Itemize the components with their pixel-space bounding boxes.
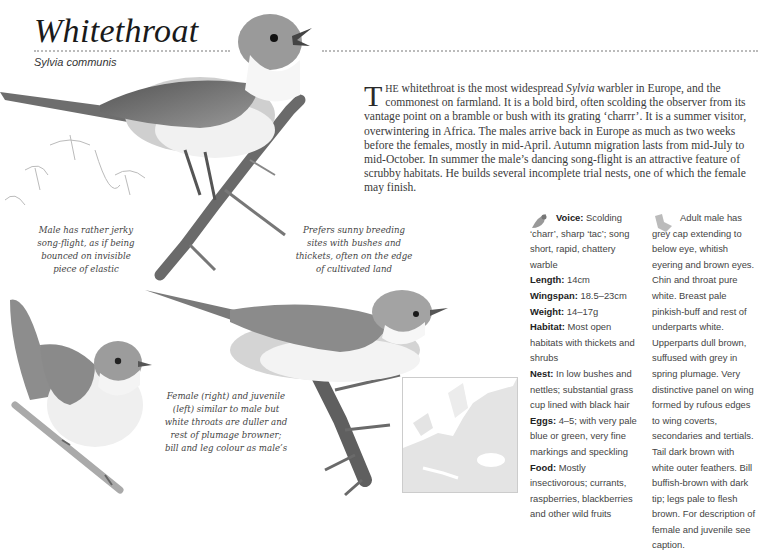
intro-paragraph: THE whitethroat is the most widespread S… — [364, 82, 756, 196]
fact-label: Length: — [530, 274, 564, 285]
fact-label: Food: — [530, 462, 556, 473]
fact-value: 14–17g — [564, 306, 598, 317]
caption-song-flight: Male has rather jerky song-flight, as if… — [34, 224, 138, 276]
fact-weight: Weight: 14–17g — [530, 304, 640, 320]
fact-nest: Nest: In low bushes and nettles; substan… — [530, 366, 640, 413]
intro-text-2: warbler in Europe, and the commonest on … — [364, 82, 746, 194]
intro-lead: HE — [385, 83, 398, 94]
fact-value: 18.5–23cm — [578, 290, 627, 301]
fact-wingspan: Wingspan: 18.5–23cm — [530, 288, 640, 304]
fact-label: Voice: — [556, 212, 583, 223]
distribution-map — [402, 377, 518, 493]
fact-value: 14cm — [564, 274, 590, 285]
fact-habitat: Habitat: Most open habitats with thicket… — [530, 319, 640, 366]
fact-eggs: Eggs: 4–5; with very pale blue or green,… — [530, 413, 640, 460]
fact-food: Food: Mostly insectivorous; currants, ra… — [530, 460, 640, 522]
fact-label: Wingspan: — [530, 290, 578, 301]
fact-label: Habitat: — [530, 321, 565, 332]
plumage-description: Adult male has grey cap extending to bel… — [652, 210, 758, 553]
drop-cap: T — [364, 83, 382, 109]
fact-label: Nest: — [530, 368, 553, 379]
fact-label: Weight: — [530, 306, 564, 317]
fact-length: Length: 14cm — [530, 272, 640, 288]
fact-label: Eggs: — [530, 415, 556, 426]
caption-habitat: Prefers sunny breeding sites with bushes… — [292, 224, 416, 276]
fact-voice: Voice: Scolding ‘charr’, sharp ‘tac’; so… — [530, 210, 640, 272]
juvenile-whitethroat-illustration — [0, 285, 160, 499]
intro-text-1: whitethroat is the most widespread — [399, 82, 566, 95]
intro-genus: Sylvia — [566, 82, 594, 95]
title-divider-right — [322, 50, 758, 52]
species-facts: Voice: Scolding ‘charr’, sharp ‘tac’; so… — [530, 210, 640, 522]
